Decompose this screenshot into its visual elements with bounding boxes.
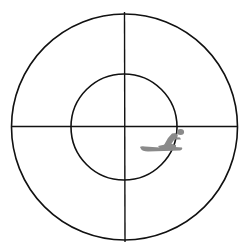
target-diagram bbox=[0, 0, 244, 252]
